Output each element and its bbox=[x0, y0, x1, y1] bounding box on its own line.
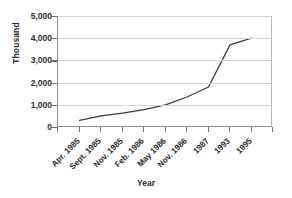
plot-area bbox=[57, 16, 272, 127]
gridline bbox=[58, 16, 271, 17]
gridline bbox=[58, 38, 271, 39]
y-axis-tick-label: 2,000 bbox=[16, 77, 52, 89]
y-axis-tick-mark bbox=[51, 16, 57, 17]
y-axis-tick-mark bbox=[51, 105, 57, 106]
gridline bbox=[58, 83, 271, 84]
x-axis-tick-mark bbox=[186, 127, 187, 132]
y-axis-tick-label: 5,000 bbox=[16, 10, 52, 22]
x-axis-tick-mark bbox=[122, 127, 123, 132]
y-axis-tick-labels: 01,0002,0003,0004,0005,000 bbox=[16, 10, 52, 134]
y-axis-tick-label: 4,000 bbox=[16, 32, 52, 44]
y-axis-tick-label: 3,000 bbox=[16, 54, 52, 66]
x-axis-tick-mark bbox=[79, 127, 80, 132]
x-axis-title: Year bbox=[0, 178, 292, 188]
y-axis-tick-label: 0 bbox=[16, 121, 52, 133]
gridline bbox=[58, 60, 271, 61]
gridline bbox=[58, 105, 271, 106]
x-axis-tick-mark bbox=[100, 127, 101, 132]
data-series-line bbox=[58, 16, 273, 127]
x-axis-tick-mark bbox=[251, 127, 252, 132]
y-axis-tick-mark bbox=[51, 60, 57, 61]
x-axis-tick-mark bbox=[57, 127, 58, 132]
y-axis-tick-label: 1,000 bbox=[16, 99, 52, 111]
x-axis-tick-mark bbox=[229, 127, 230, 132]
y-axis-tick-mark bbox=[51, 83, 57, 84]
line-chart-figure: Thousand 01,0002,0003,0004,0005,000 Apr.… bbox=[0, 0, 292, 198]
y-axis-tick-mark bbox=[51, 38, 57, 39]
x-axis-tick-mark bbox=[208, 127, 209, 132]
x-axis-tick-mark bbox=[272, 127, 273, 132]
x-axis-tick-mark bbox=[165, 127, 166, 132]
x-axis-tick-mark bbox=[143, 127, 144, 132]
